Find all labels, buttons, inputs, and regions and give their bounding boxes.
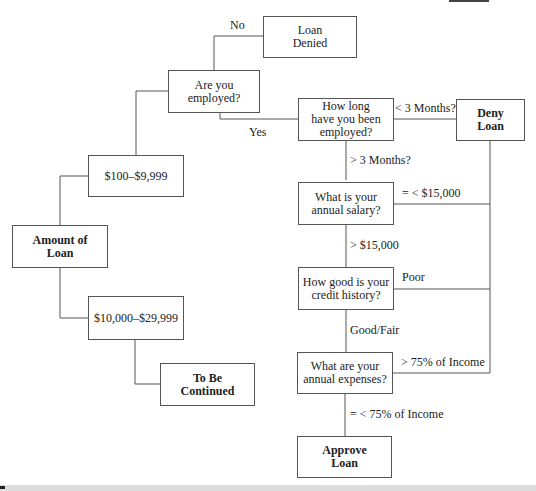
node-how-long-employed: How long have you been employed? (298, 98, 394, 141)
node-credit-history: How good is your credit history? (298, 267, 394, 310)
node-annual-salary: What is your annual salary? (298, 182, 394, 225)
edge-label-less-3-months: < 3 Months? (395, 102, 456, 115)
node-to-be-continued: To Be Continued (160, 363, 255, 406)
edge-label-salary-high: > $15,000 (350, 239, 399, 252)
node-loan-denied: Loan Denied (263, 16, 357, 58)
node-annual-expenses: What are your annual expenses? (297, 352, 393, 394)
edge-label-poor: Poor (402, 271, 425, 284)
page-bottom-tick (0, 486, 5, 489)
edge-label-no: No (230, 19, 245, 32)
edge-label-expenses-low: = < 75% of Income (350, 408, 444, 421)
page-bottom-rule (0, 485, 536, 491)
node-amount-of-loan: Amount of Loan (12, 225, 108, 268)
edge-label-expenses-high: > 75% of Income (401, 356, 485, 369)
node-approve-loan: Approve Loan (297, 436, 392, 478)
node-range-10000-29999: $10,000–$29,999 (88, 296, 184, 340)
node-deny-loan: Deny Loan (456, 99, 525, 141)
edge-label-more-3-months: > 3 Months? (350, 154, 411, 167)
edge-label-salary-low: = < $15,000 (402, 187, 461, 200)
edge-label-yes: Yes (249, 126, 266, 139)
edge-label-good-fair: Good/Fair (350, 324, 399, 337)
node-range-100-9999: $100–$9,999 (88, 155, 184, 197)
node-are-you-employed: Are you employed? (168, 70, 260, 113)
